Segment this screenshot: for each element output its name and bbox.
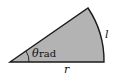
angle-symbol-label: θ <box>32 47 39 60</box>
radius-label: r <box>64 63 70 75</box>
sector-diagram: θ rad l r <box>0 0 115 75</box>
arc-length-label: l <box>105 28 109 41</box>
sector-shape <box>10 8 104 62</box>
angle-unit-label: rad <box>39 48 57 59</box>
